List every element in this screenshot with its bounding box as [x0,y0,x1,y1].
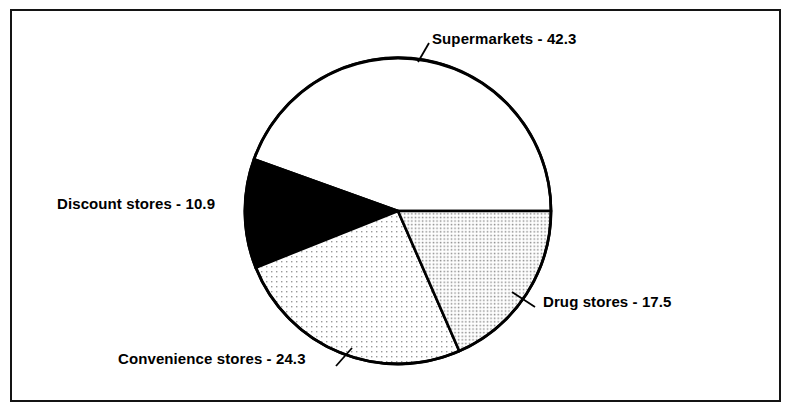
pie-label-discount-stores: Discount stores - 10.9 [57,195,215,212]
pie-label-drug-stores: Drug stores - 17.5 [543,293,672,310]
pie-label-convenience-stores: Convenience stores - 24.3 [118,350,306,367]
pie-label-supermarkets: Supermarkets - 42.3 [432,30,576,47]
pie-chart-figure: Supermarkets - 42.3 Discount stores - 10… [0,0,795,416]
